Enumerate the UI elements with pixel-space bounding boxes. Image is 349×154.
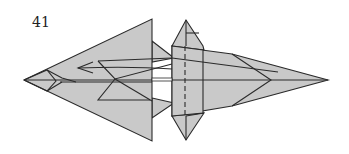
spine-highlight (152, 78, 172, 81)
body-center-strip (172, 46, 203, 116)
bottom-fin (172, 113, 204, 140)
back-flap-bottom (152, 98, 174, 118)
origami-diagram (0, 0, 349, 154)
top-fin (172, 20, 204, 50)
